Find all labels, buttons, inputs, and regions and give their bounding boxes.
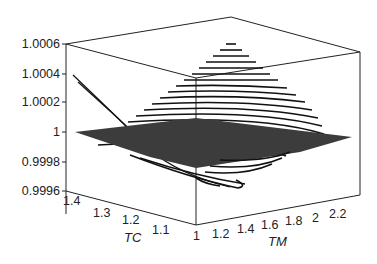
surface-plot: 1.0006 1.0004 1.0002 1 0.9998 0.9996 1.4… — [0, 0, 377, 264]
z-tick-label: 1 — [53, 125, 60, 139]
tm-tick-label: 1.4 — [237, 222, 254, 236]
tc-axis-title: TC — [124, 230, 142, 245]
tm-axis: 1.2 1.4 1.6 1.8 2 2.2 TM — [196, 195, 360, 249]
tc-tick-label: 1.1 — [152, 223, 169, 237]
tm-tick-label: 2 — [312, 211, 319, 225]
z-tick-label: 0.9996 — [22, 184, 60, 198]
tm-tick-label: 1.6 — [261, 218, 278, 232]
tc-tick-label: 1.3 — [93, 206, 110, 220]
tm-axis-title: TM — [268, 234, 287, 249]
tm-tick-label: 2.2 — [329, 207, 346, 221]
reference-plane — [75, 118, 352, 168]
tm-tick-label: 1.2 — [212, 227, 229, 241]
z-tick-label: 1.0002 — [22, 95, 60, 109]
tc-tick-label: 1.4 — [63, 194, 80, 208]
z-tick-label: 1.0004 — [22, 67, 60, 81]
z-tick-label: 0.9998 — [22, 155, 60, 169]
tc-axis: 1.4 1.3 1.2 1.1 1 TC — [63, 191, 200, 245]
tc-tick-label: 1 — [193, 229, 200, 243]
z-axis: 1.0006 1.0004 1.0002 1 0.9998 0.9996 — [22, 37, 66, 214]
tc-tick-label: 1.2 — [122, 213, 139, 227]
tm-tick-label: 1.8 — [285, 214, 302, 228]
z-tick-label: 1.0006 — [22, 37, 60, 51]
